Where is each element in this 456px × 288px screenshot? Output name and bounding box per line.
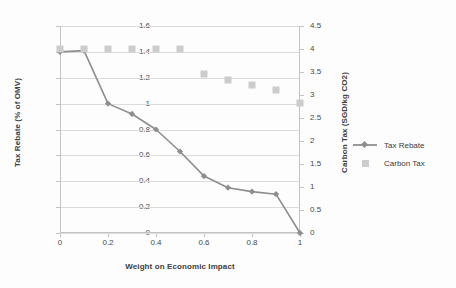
tax-rebate-line	[60, 51, 300, 233]
carbon-tax-point	[177, 46, 184, 53]
y-axis-right-tick-mark	[300, 26, 304, 27]
carbon-tax-point	[225, 76, 232, 83]
carbon-tax-point	[129, 46, 136, 53]
x-axis-tick-label: 1	[280, 238, 320, 247]
square-marker-icon	[352, 160, 378, 167]
gridline	[60, 233, 300, 234]
y-axis-right-tick-label: 4	[310, 44, 350, 53]
carbon-tax-point	[297, 99, 304, 106]
tax-rebate-point	[105, 101, 111, 107]
y-axis-right-tick-label: 1	[310, 182, 350, 191]
x-axis-title: Weight on Economic Impact	[60, 262, 300, 271]
legend-label-carbon-tax: Carbon Tax	[384, 159, 425, 168]
y-axis-right-tick-label: 2.5	[310, 113, 350, 122]
carbon-tax-point	[273, 87, 280, 94]
x-axis-tick-label: 0.2	[88, 238, 128, 247]
carbon-tax-point	[81, 46, 88, 53]
legend-label-tax-rebate: Tax Rebate	[384, 141, 424, 150]
y-axis-right-tick-mark	[300, 95, 304, 96]
y-axis-right-tick-mark	[300, 210, 304, 211]
y-axis-right-tick-mark	[300, 164, 304, 165]
x-axis-tick-label: 0	[40, 238, 80, 247]
y-axis-right-tick-label: 0	[310, 228, 350, 237]
y-axis-right-tick-label: 3	[310, 90, 350, 99]
x-axis-tick-label: 0.8	[232, 238, 272, 247]
series-tax-rebate	[60, 26, 300, 233]
chart-figure: Tax Rebate (% of OMV) Carbon Tax (SGD/kg…	[0, 0, 456, 288]
legend-item-carbon-tax: Carbon Tax	[352, 154, 425, 172]
plot-area	[60, 26, 300, 233]
carbon-tax-point	[249, 81, 256, 88]
legend-item-tax-rebate: Tax Rebate	[352, 136, 425, 154]
y-axis-right-tick-mark	[300, 49, 304, 50]
carbon-tax-point	[105, 46, 112, 53]
carbon-tax-point	[201, 71, 208, 78]
y-axis-right-tick-mark	[300, 141, 304, 142]
y-axis-right-tick-mark	[300, 118, 304, 119]
y-axis-right-tick-label: 0.5	[310, 205, 350, 214]
y-axis-right-tick-label: 1.5	[310, 159, 350, 168]
y-axis-left-title: Tax Rebate (% of OMV)	[13, 48, 22, 198]
x-axis-tick-label: 0.4	[136, 238, 176, 247]
tax-rebate-point	[225, 185, 231, 191]
x-axis-tick-label: 0.6	[184, 238, 224, 247]
tax-rebate-point	[249, 188, 255, 194]
y-axis-right-tick-mark	[300, 187, 304, 188]
carbon-tax-point	[153, 46, 160, 53]
y-axis-right-tick-label: 3.5	[310, 67, 350, 76]
carbon-tax-point	[57, 46, 64, 53]
y-axis-right-tick-label: 4.5	[310, 21, 350, 30]
chart-legend: Tax Rebate Carbon Tax	[352, 136, 425, 172]
y-axis-right-tick-label: 2	[310, 136, 350, 145]
y-axis-right-tick-mark	[300, 72, 304, 73]
line-diamond-icon	[352, 144, 378, 146]
